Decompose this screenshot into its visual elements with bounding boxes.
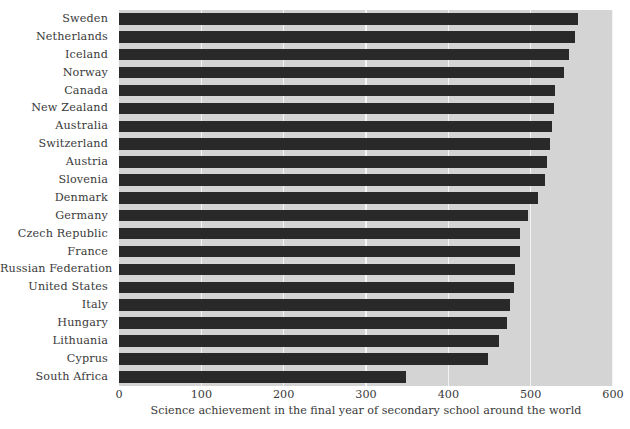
plot-area <box>119 10 613 386</box>
category-label: Sweden <box>0 10 114 28</box>
category-label: Cyprus <box>0 350 114 368</box>
bar <box>119 228 520 240</box>
bar-row <box>119 28 613 46</box>
category-label: South Africa <box>0 368 114 386</box>
category-axis-labels: SwedenNetherlandsIcelandNorwayCanadaNew … <box>0 10 114 386</box>
bar-row <box>119 243 613 261</box>
bar <box>119 67 564 79</box>
category-label: Australia <box>0 117 114 135</box>
bar <box>119 192 538 204</box>
category-label: Germany <box>0 207 114 225</box>
bar <box>119 31 575 43</box>
bar <box>119 13 578 25</box>
x-tick-label: 200 <box>273 388 294 401</box>
bar <box>119 85 555 97</box>
bar-row <box>119 278 613 296</box>
bar-row <box>119 99 613 117</box>
x-tick-label: 300 <box>355 388 376 401</box>
category-label: Switzerland <box>0 135 114 153</box>
category-label: Norway <box>0 64 114 82</box>
bar <box>119 371 406 383</box>
bar-row <box>119 189 613 207</box>
bar-row <box>119 350 613 368</box>
bar-row <box>119 260 613 278</box>
bar <box>119 103 554 115</box>
bar <box>119 138 550 150</box>
bar <box>119 210 528 222</box>
bar <box>119 317 507 329</box>
bar <box>119 282 514 294</box>
bar-row <box>119 135 613 153</box>
bar-row <box>119 314 613 332</box>
bar <box>119 264 515 276</box>
bar-row <box>119 368 613 386</box>
bar-row <box>119 10 613 28</box>
x-tick-label: 400 <box>438 388 459 401</box>
category-label: United States <box>0 278 114 296</box>
bar <box>119 174 545 186</box>
category-label: Russian Federation <box>0 260 114 278</box>
category-label: Denmark <box>0 189 114 207</box>
science-achievement-bar-chart: SwedenNetherlandsIcelandNorwayCanadaNew … <box>0 0 630 429</box>
x-tick-label: 0 <box>115 388 122 401</box>
bar <box>119 335 499 347</box>
bar <box>119 299 510 311</box>
bar <box>119 156 547 168</box>
category-label: Austria <box>0 153 114 171</box>
category-label: New Zealand <box>0 99 114 117</box>
bar <box>119 246 520 258</box>
category-label: Lithuania <box>0 332 114 350</box>
bar-row <box>119 207 613 225</box>
bar-row <box>119 46 613 64</box>
x-tick-label: 100 <box>191 388 212 401</box>
x-tick-label: 600 <box>602 388 623 401</box>
bar <box>119 49 569 61</box>
category-label: France <box>0 243 114 261</box>
bar-row <box>119 64 613 82</box>
category-label: Italy <box>0 296 114 314</box>
category-label: Canada <box>0 82 114 100</box>
bar-row <box>119 153 613 171</box>
bar-row <box>119 225 613 243</box>
bar-series <box>119 10 613 386</box>
bar-row <box>119 332 613 350</box>
x-tick-label: 500 <box>520 388 541 401</box>
x-axis-ticks: 0100200300400500600 <box>119 388 613 404</box>
bar-row <box>119 117 613 135</box>
x-axis-title: Science achievement in the final year of… <box>119 404 613 417</box>
category-label: Czech Republic <box>0 225 114 243</box>
bar-row <box>119 296 613 314</box>
category-label: Netherlands <box>0 28 114 46</box>
bar-row <box>119 82 613 100</box>
bar <box>119 121 552 133</box>
bar <box>119 353 488 365</box>
category-label: Slovenia <box>0 171 114 189</box>
category-label: Hungary <box>0 314 114 332</box>
bar-row <box>119 171 613 189</box>
category-label: Iceland <box>0 46 114 64</box>
